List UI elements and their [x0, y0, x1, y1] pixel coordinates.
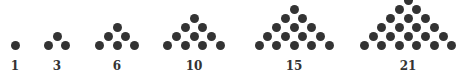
dot: [281, 14, 290, 23]
dot: [377, 23, 386, 32]
dot: [44, 41, 53, 50]
dot: [447, 41, 456, 50]
dot: [272, 23, 281, 32]
dot: [121, 32, 130, 41]
dot: [216, 41, 225, 50]
dot: [198, 41, 207, 50]
dot: [255, 41, 264, 50]
dot: [307, 23, 316, 32]
dot: [395, 41, 404, 50]
dot: [113, 23, 122, 32]
dot: [11, 41, 20, 50]
dot: [163, 41, 172, 50]
dot: [421, 14, 430, 23]
dot: [181, 41, 190, 50]
dot: [395, 23, 404, 32]
dot: [113, 41, 122, 50]
dot: [290, 5, 299, 14]
dot: [386, 14, 395, 23]
dot: [298, 32, 307, 41]
dot: [198, 23, 207, 32]
dot: [395, 5, 404, 14]
dot: [190, 32, 199, 41]
dot: [298, 14, 307, 23]
dot: [181, 23, 190, 32]
figure-label: 10: [174, 59, 214, 73]
figure-label: 1: [0, 59, 35, 73]
dot: [386, 32, 395, 41]
dot: [430, 23, 439, 32]
dot: [316, 32, 325, 41]
dot: [421, 32, 430, 41]
dot: [377, 41, 386, 50]
dot: [172, 32, 181, 41]
dot: [104, 32, 113, 41]
dot: [61, 41, 70, 50]
dot: [439, 32, 448, 41]
figure-label: 3: [37, 59, 77, 73]
dot: [281, 32, 290, 41]
dot: [404, 0, 413, 5]
figure-label: 15: [274, 59, 314, 73]
dot: [369, 32, 378, 41]
figure-label: 6: [97, 59, 137, 73]
dot: [53, 32, 62, 41]
dot: [272, 41, 281, 50]
dot: [190, 14, 199, 23]
dot: [290, 23, 299, 32]
dot: [412, 41, 421, 50]
dot: [290, 41, 299, 50]
dot: [325, 41, 334, 50]
dot: [263, 32, 272, 41]
dot: [404, 14, 413, 23]
triangular-numbers-diagram: 1 3 6 10 15 21: [0, 0, 467, 75]
dot: [307, 41, 316, 50]
figure-label: 21: [388, 59, 428, 73]
dot: [207, 32, 216, 41]
dot: [95, 41, 104, 50]
dot: [430, 41, 439, 50]
dot: [360, 41, 369, 50]
dot: [412, 5, 421, 14]
dot: [412, 23, 421, 32]
dot: [404, 32, 413, 41]
dot: [130, 41, 139, 50]
